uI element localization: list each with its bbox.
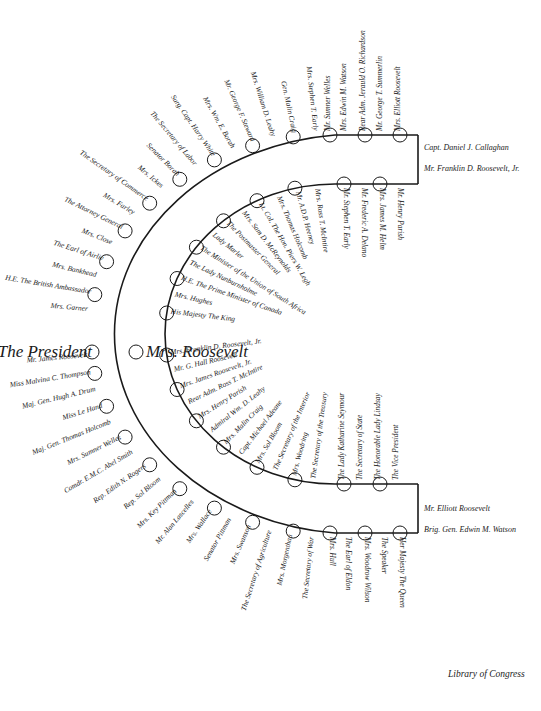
- seating-chart-diagram: Mrs. Elliott RooseveltMr. George T. Summ…: [0, 0, 541, 711]
- outer-bottom-guest: The Secretary of War: [300, 536, 315, 599]
- outer-top-guest: Mrs. Garner: [49, 301, 88, 314]
- end-top-guest-1: Capt. Daniel J. Callaghan: [424, 143, 509, 152]
- inner-bottom-guest: The Lady Katharine Seymour: [337, 393, 346, 480]
- outer-bottom-guest: Mrs. Swanson: [227, 523, 253, 566]
- outer-top-guest: Mrs. Ickes: [135, 162, 165, 189]
- outer-bottom-guest: Mrs. Wallace: [183, 507, 214, 546]
- outer-bottom-guest: Mrs. Woodrow Wilson: [363, 536, 372, 603]
- outer-bottom-guest: The Speaker: [380, 537, 389, 574]
- outer-bottom-guest: Mrs. Morgenthau: [274, 533, 294, 587]
- inner-bottom-guest: The Secretary of State: [355, 414, 364, 480]
- inner-top-guest: Mrs. Hughes: [173, 289, 213, 307]
- outer-bottom-guest: Miss Malvina C. Thompson: [8, 367, 91, 389]
- outer-bottom-guest: Mrs. Hull: [328, 536, 337, 566]
- outer-top-guest: H.E. The British Ambassador: [4, 273, 93, 296]
- inner-bottom-guest: The Secretary of the Treasury: [308, 391, 329, 479]
- inner-top-guest: Mr. Stephen T. Early: [342, 187, 351, 250]
- outer-top-guest: Mr. George T. Summerlin: [375, 56, 384, 132]
- host-mrs-roosevelt: Mrs. Roosevelt: [145, 342, 249, 361]
- outer-top-guest: Gen. Malin Craig: [279, 80, 299, 134]
- outer-bottom-guest: Miss Le Hand: [60, 401, 103, 423]
- outer-top-guest: Mrs. Elliott Roosevelt: [393, 65, 402, 132]
- inner-top-guest: Mrs. James M. Helm: [378, 187, 387, 250]
- outer-top-guest: Mrs. Edwin M. Watson: [339, 63, 348, 132]
- outer-bottom-guest: Her Majesty The Queen: [398, 536, 407, 608]
- inner-top-guest: Mrs. Ross T. McIntire: [313, 187, 331, 254]
- inner-top-guest: His Majesty The King: [169, 306, 236, 323]
- inner-bottom-guest: The Honorable Lady Lindsay: [373, 392, 382, 480]
- outer-top-guest: Mrs. Bankhead: [51, 259, 98, 279]
- outer-top-guest: Mrs. Farley: [101, 190, 137, 217]
- chair-icon: [129, 345, 143, 359]
- inner-top-guest: Mr. Frederic A. Delano: [360, 187, 369, 257]
- outer-top-guest: Mr. Sumner Welles: [323, 76, 332, 132]
- host-president: The President: [0, 342, 93, 361]
- outer-top-guest: Mrs. Close: [79, 226, 114, 247]
- guest-labels: Mrs. Elliott RooseveltMr. George T. Summ…: [0, 30, 520, 612]
- outer-top-guest: Mrs. Stephen T. Early: [305, 65, 321, 132]
- end-bottom-guest-1: Mr. Elliott Roosevelt: [423, 504, 491, 513]
- credit-label: Library of Congress: [448, 669, 525, 679]
- outer-bottom-guest: The Earl of Eldon: [344, 537, 353, 590]
- end-top-guest-2: Mr. Franklin D. Roosevelt, Jr.: [423, 164, 520, 173]
- outer-top-guest: The Earl of Airlie: [52, 238, 105, 263]
- outer-top-guest: Rear Adm. Jerauld O. Richardson: [358, 30, 367, 132]
- inner-top-guest: Mr. Henry Parish: [396, 187, 405, 240]
- end-bottom-guest-2: Brig. Gen. Edwin M. Watson: [424, 525, 516, 534]
- inner-bottom-guest: The Vice President: [391, 424, 400, 480]
